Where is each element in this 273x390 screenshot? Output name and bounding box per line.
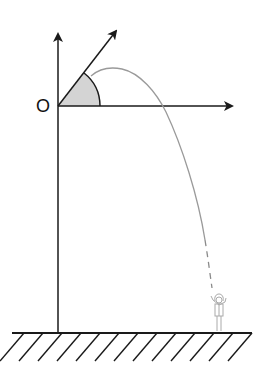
projectile-diagram: O: [0, 0, 273, 390]
diagram-canvas: [0, 0, 273, 390]
ground-hatching: [0, 333, 252, 361]
person-icon: [211, 294, 226, 331]
trajectory-dashed-end: [205, 240, 212, 288]
trajectory-curve: [91, 68, 205, 240]
origin-label: O: [36, 97, 50, 115]
